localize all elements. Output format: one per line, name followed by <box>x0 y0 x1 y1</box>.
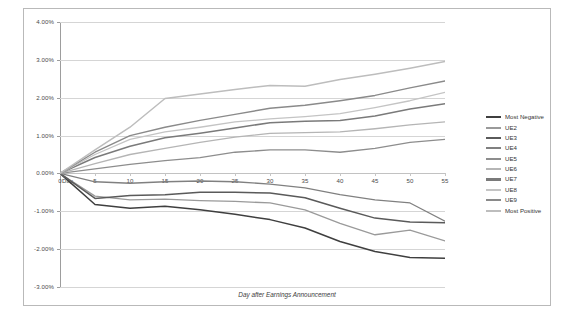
legend-label: UE4 <box>505 145 517 151</box>
legend-swatch <box>486 127 501 129</box>
legend-item[interactable]: UE9 <box>486 195 570 205</box>
legend-label: UE7 <box>505 176 517 182</box>
legend-item[interactable]: UE6 <box>486 164 570 174</box>
legend-swatch <box>486 178 501 180</box>
legend-item[interactable]: UE5 <box>486 154 570 164</box>
chart-legend: Most NegativeUE2UE3UE4UE5UE6UE7UE8UE9Mos… <box>486 112 570 216</box>
legend-label: UE8 <box>505 187 517 193</box>
chart-screenshot: 4.00%3.00%2.00%1.00%0.00%-1.00%-2.00%-3.… <box>0 0 574 322</box>
legend-label: UE5 <box>505 156 517 162</box>
series-line <box>60 173 445 258</box>
legend-item[interactable]: Most Negative <box>486 112 570 122</box>
legend-label: UE3 <box>505 135 517 141</box>
legend-swatch <box>486 137 501 139</box>
legend-label: Most Positive <box>505 208 541 214</box>
legend-swatch <box>486 189 501 191</box>
series-line <box>60 104 445 174</box>
legend-swatch <box>486 168 501 170</box>
legend-swatch <box>486 116 501 118</box>
y-tick-mark <box>57 287 60 288</box>
y-tick-label: -2.00% <box>2 245 54 252</box>
series-line <box>60 92 445 173</box>
legend-item[interactable]: UE3 <box>486 133 570 143</box>
y-tick-label: 4.00% <box>2 18 54 25</box>
x-tick-mark <box>445 173 446 176</box>
series-line <box>60 61 445 173</box>
legend-swatch <box>486 147 501 149</box>
legend-swatch <box>486 199 501 201</box>
legend-swatch <box>486 210 501 212</box>
y-tick-label: 1.00% <box>2 132 54 139</box>
x-axis-title: Day after Earnings Announcement <box>0 291 574 298</box>
gridline <box>60 287 445 288</box>
series-line <box>60 173 445 221</box>
legend-label: Most Negative <box>505 114 544 120</box>
series-lines <box>60 22 445 287</box>
y-tick-label: -1.00% <box>2 207 54 214</box>
legend-label: UE6 <box>505 166 517 172</box>
legend-swatch <box>486 158 501 160</box>
legend-label: UE2 <box>505 125 517 131</box>
legend-item[interactable]: UE8 <box>486 185 570 195</box>
y-tick-label: 3.00% <box>2 56 54 63</box>
legend-item[interactable]: UE2 <box>486 122 570 132</box>
plot-area <box>60 22 445 287</box>
legend-item[interactable]: UE7 <box>486 174 570 184</box>
legend-label: UE9 <box>505 197 517 203</box>
legend-item[interactable]: Most Positive <box>486 206 570 216</box>
y-tick-label: 2.00% <box>2 94 54 101</box>
y-tick-label: -3.00% <box>2 283 54 290</box>
y-tick-label: 0.00% <box>2 169 54 176</box>
legend-item[interactable]: UE4 <box>486 143 570 153</box>
